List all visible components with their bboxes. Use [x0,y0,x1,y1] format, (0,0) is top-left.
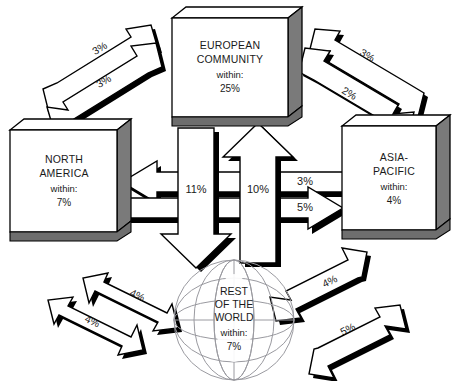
ap-box-side [436,115,450,230]
region-node-north-america: NORTH AMERICA within: 7% [10,119,131,241]
region-label-row-line3: WORLD [214,311,254,323]
region-within-value-row: 7% [227,341,242,352]
ap-box-top [342,115,450,126]
region-within-label-ec: within: [216,69,244,80]
region-within-label-ap: within: [380,181,408,192]
region-label-ap-line1: ASIA- [380,151,409,163]
region-node-asia-pacific: ASIA- PACIFIC within: 4% [342,115,450,239]
flow-label-ec-to-row: 11% [185,183,206,195]
region-label-row-line1: REST [220,285,249,297]
flow-label-row-to-ec: 10% [247,183,269,195]
na-box-face [10,130,117,232]
region-within-value-na: 7% [57,197,72,208]
flow-label-ap-to-na: 3% [297,175,313,187]
region-within-label-row: within: [220,327,248,338]
region-label-ap-line2: PACIFIC [373,165,415,177]
region-node-european-community: EUROPEAN COMMUNITY within: 25% [172,7,302,126]
region-within-value-ec: 25% [220,83,240,94]
flow-label-na-to-ap: 5% [297,201,313,213]
region-label-na-line2: AMERICA [39,167,88,179]
region-within-label-na: within: [50,183,78,194]
ec-box-top [172,7,302,18]
region-within-value-ap: 4% [387,195,402,206]
ap-box-face [342,126,436,230]
region-label-na-line1: NORTH [45,153,83,165]
na-box-top [10,119,131,130]
trade-flow-diagram: 4% 4% 4% 5% 3% 3% 3% 2% [0,0,466,381]
na-box-side [117,119,131,232]
region-label-ec-line1: EUROPEAN [200,39,261,51]
region-label-ec-line2: COMMUNITY [197,53,264,65]
region-label-row-line2: OF THE [215,298,253,310]
diagram-canvas: 4% 4% 4% 5% 3% 3% 3% 2% [0,0,466,381]
ec-box-side [288,7,302,117]
ec-box-face [172,18,288,117]
